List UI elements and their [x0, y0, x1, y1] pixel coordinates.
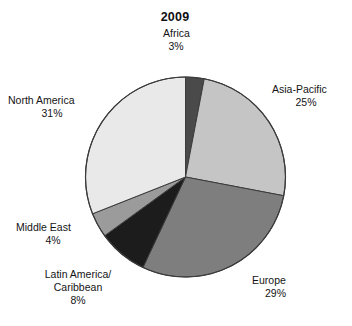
- slice-label-asia-pacific: Asia-Pacific 25%: [272, 83, 340, 109]
- slice-label-north-america: North America 31%: [8, 94, 96, 120]
- pie-slice-asia-pacific: [186, 79, 286, 196]
- slice-label-europe-percent: 29%: [252, 287, 299, 300]
- slice-label-middle-east-name: Middle East: [16, 221, 90, 234]
- slice-label-asia-pacific-name: Asia-Pacific: [272, 83, 340, 96]
- slice-label-africa: Africa 3%: [0, 27, 352, 53]
- slice-label-latin-america-caribbean: Latin America/ Caribbean 8%: [30, 268, 126, 307]
- slice-label-africa-percent: 3%: [0, 40, 352, 53]
- pie-chart-figure: 2009 Africa 3% Asia-Pacific 25% Europe 2…: [0, 0, 352, 326]
- slice-label-middle-east: Middle East 4%: [16, 221, 90, 247]
- slice-label-latin-america-percent: 8%: [30, 294, 126, 307]
- slice-label-north-america-percent: 31%: [8, 107, 96, 120]
- slice-label-north-america-name: North America: [8, 94, 96, 107]
- pie-slices-group: [85, 77, 285, 277]
- slice-label-latin-america-line1: Latin America/: [30, 268, 126, 281]
- slice-label-europe-name: Europe: [252, 274, 299, 287]
- slice-label-middle-east-percent: 4%: [16, 234, 90, 247]
- slice-label-africa-name: Africa: [1, 27, 352, 40]
- slice-label-asia-pacific-percent: 25%: [272, 96, 340, 109]
- slice-label-europe: Europe 29%: [252, 274, 299, 300]
- slice-label-latin-america-line2: Caribbean: [30, 281, 126, 294]
